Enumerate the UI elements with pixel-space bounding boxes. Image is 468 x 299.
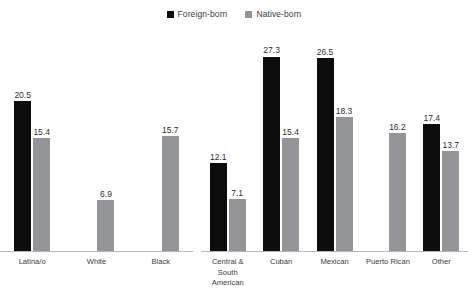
- bar-black-foreign-born: [143, 46, 160, 251]
- bar-groups-left: 20.5 15.4 6.9: [0, 46, 193, 251]
- bar-cuban-native-born[interactable]: 15.4: [282, 46, 299, 251]
- category-labels-right: Central & South American Cuban Mexican P…: [201, 253, 468, 299]
- category-label-black: Black: [129, 253, 193, 299]
- panel-axis-line-right: [201, 251, 468, 252]
- bar-white-foreign-born: [78, 46, 95, 251]
- category-label-central-south-american: Central & South American: [201, 253, 254, 299]
- bar-white-native-born[interactable]: 6.9: [97, 46, 114, 251]
- bar-value-cuban-native-born: 15.4: [282, 128, 299, 137]
- category-labels-left: Latina/o White Black: [0, 253, 193, 299]
- bar-value-latina-o-foreign-born: 20.5: [14, 91, 31, 100]
- panel-race-ethnicity: 20.5 15.4 6.9: [0, 30, 193, 299]
- bar-group-puerto-rican: 16.2: [361, 46, 414, 251]
- bar-puerto-rican-native-born[interactable]: 16.2: [389, 46, 406, 251]
- bar-central-south-american-foreign-born[interactable]: 12.1: [210, 46, 227, 251]
- bar-mexican-native-born[interactable]: 18.3: [336, 46, 353, 251]
- bar-value-other-native-born: 13.7: [443, 141, 460, 150]
- bar-value-black-native-born: 15.7: [162, 126, 179, 135]
- bar-rect-latina-o-foreign-born: [14, 101, 31, 251]
- bar-group-central-south-american: 12.1 7.1: [201, 46, 254, 251]
- legend-swatch-foreign-born: [167, 11, 174, 18]
- bar-rect-cuban-foreign-born: [263, 57, 280, 252]
- bar-value-central-south-american-foreign-born: 12.1: [210, 153, 227, 162]
- bar-groups-right: 12.1 7.1 27.3 15.4: [201, 46, 468, 251]
- category-label-other: Other: [415, 253, 468, 299]
- bar-rect-central-south-american-native-born: [229, 199, 246, 251]
- bar-central-south-american-native-born[interactable]: 7.1: [229, 46, 246, 251]
- bar-group-latina-o: 20.5 15.4: [0, 46, 64, 251]
- chart-panels: 20.5 15.4 6.9: [0, 30, 468, 299]
- bar-rect-mexican-native-born: [336, 117, 353, 251]
- bar-group-white: 6.9: [64, 46, 128, 251]
- legend-label-foreign-born: Foreign-born: [178, 9, 228, 19]
- legend-item-native-born: Native-born: [245, 9, 301, 19]
- category-label-puerto-rican: Puerto Rican: [361, 253, 414, 299]
- bar-mexican-foreign-born[interactable]: 26.5: [317, 46, 334, 251]
- bar-group-black: 15.7: [129, 46, 193, 251]
- bar-rect-other-foreign-born: [423, 124, 440, 251]
- chart-legend: Foreign-born Native-born: [0, 9, 468, 19]
- bar-puerto-rican-foreign-born: [370, 46, 387, 251]
- bar-rect-black-native-born: [162, 136, 179, 251]
- bar-rect-other-native-born: [442, 151, 459, 251]
- legend-label-native-born: Native-born: [256, 9, 301, 19]
- category-label-mexican: Mexican: [308, 253, 361, 299]
- bar-rect-cuban-native-born: [282, 138, 299, 251]
- bar-value-mexican-native-born: 18.3: [336, 107, 353, 116]
- bar-value-mexican-foreign-born: 26.5: [317, 48, 334, 57]
- bar-rect-white-native-born: [97, 200, 114, 251]
- bar-rect-central-south-american-foreign-born: [210, 163, 227, 251]
- bar-rect-latina-o-native-born: [33, 138, 50, 251]
- legend-item-foreign-born: Foreign-born: [167, 9, 228, 19]
- legend-swatch-native-born: [245, 11, 252, 18]
- bar-rect-puerto-rican-native-born: [389, 133, 406, 251]
- bar-rect-mexican-foreign-born: [317, 58, 334, 251]
- bar-black-native-born[interactable]: 15.7: [162, 46, 179, 251]
- panel-axis-line-left: [0, 251, 193, 252]
- bar-group-mexican: 26.5 18.3: [308, 46, 361, 251]
- bar-latina-o-native-born[interactable]: 15.4: [33, 46, 50, 251]
- panel-divider-gap: [193, 30, 201, 299]
- bar-latina-o-foreign-born[interactable]: 20.5: [14, 46, 31, 251]
- bar-other-foreign-born[interactable]: 17.4: [423, 46, 440, 251]
- category-label-latina-o: Latina/o: [0, 253, 64, 299]
- bar-group-cuban: 27.3 15.4: [254, 46, 307, 251]
- bar-value-latina-o-native-born: 15.4: [33, 128, 50, 137]
- bar-other-native-born[interactable]: 13.7: [442, 46, 459, 251]
- bar-chart: Foreign-born Native-born 20.5 15.4: [0, 0, 468, 299]
- bar-group-other: 17.4 13.7: [415, 46, 468, 251]
- panel-hispanic-origin: 12.1 7.1 27.3 15.4: [201, 30, 468, 299]
- bar-value-central-south-american-native-born: 7.1: [231, 189, 243, 198]
- category-label-cuban: Cuban: [254, 253, 307, 299]
- category-label-white: White: [64, 253, 128, 299]
- bar-value-cuban-foreign-born: 27.3: [263, 46, 280, 55]
- bar-cuban-foreign-born[interactable]: 27.3: [263, 46, 280, 251]
- bar-value-puerto-rican-native-born: 16.2: [389, 123, 406, 132]
- bar-value-other-foreign-born: 17.4: [424, 114, 441, 123]
- bar-value-white-native-born: 6.9: [100, 190, 112, 199]
